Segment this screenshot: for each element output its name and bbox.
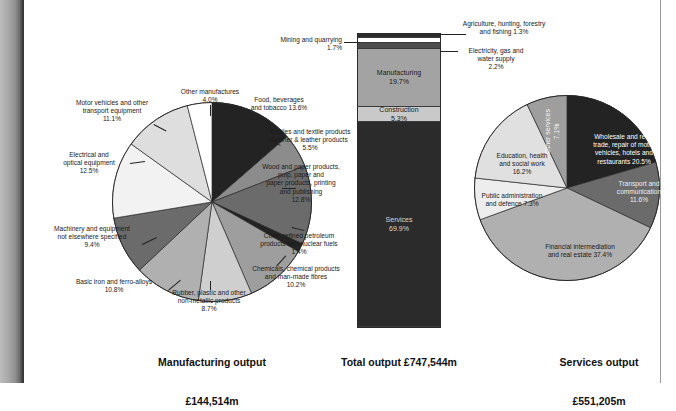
- bar-segment: Manufacturing 19.7%: [358, 49, 440, 107]
- services-output-total: £551,205m: [524, 395, 674, 408]
- pie2-label-other-services: Other services 7.1%: [544, 101, 561, 163]
- bar-segment: Construction 5.3%: [358, 107, 440, 123]
- pie1-leader-rubber-plastic: [210, 281, 211, 290]
- pie2-label-public-admin: Public administration and defence 7.3%: [454, 192, 570, 208]
- services-output-caption: Services output £551,205m: [524, 330, 674, 411]
- pie2-label-transport: Transport and communication 11.6%: [600, 180, 676, 205]
- bar-leader-electricity: [440, 51, 458, 52]
- bar-segment: Services 69.9%: [358, 122, 440, 327]
- bar-segment-label: Construction 5.3%: [358, 106, 440, 123]
- manufacturing-output-caption: Manufacturing output £144,514m: [132, 330, 292, 411]
- pie1-label-coke-petroleum: Coke, refined petroleum products and nuc…: [234, 232, 364, 257]
- pie1-label-motor-vehicles: Motor vehicles and other transport equip…: [50, 99, 174, 124]
- total-output-title: Total output £747,544m: [314, 356, 484, 369]
- pie1-label-rubber-plastic: Rubber, plastic and other non-metallic p…: [150, 289, 268, 314]
- pie2-label-financial: Financial intermediation and real estate…: [522, 243, 638, 259]
- total-output-bar-chart: Manufacturing 19.7%Construction 5.3%Serv…: [357, 33, 441, 328]
- charts-canvas: Other manufactures 4.0% Motor vehicles a…: [24, 0, 660, 383]
- manufacturing-output-title: Manufacturing output: [132, 356, 292, 369]
- pie1-leader-wood-paper: [282, 188, 296, 189]
- pie2-label-wholesale-retail: Wholesale and retail trade, repair of mo…: [576, 133, 672, 166]
- bar-segment-label: Services 69.9%: [358, 216, 440, 233]
- pie1-label-wood-paper: Wood and paper products, pulp, paper and…: [242, 163, 360, 204]
- bar-leader-mining: [344, 42, 360, 43]
- page-edge-shading: [0, 0, 22, 383]
- pie1-leader-other-manufactures: [210, 105, 211, 116]
- pie1-label-electrical-optical: Electrical and optical equipment 12.5%: [34, 151, 144, 176]
- bar-segment-label: Manufacturing 19.7%: [358, 69, 440, 86]
- pie1-label-textiles: Textiles and textile products leather & …: [246, 128, 374, 153]
- services-output-title: Services output: [524, 356, 674, 369]
- pie1-label-food-beverages: Food, beverages and tobacco 13.6%: [224, 96, 334, 112]
- bar-callout-electricity: Electricity, gas and water supply 2.2%: [442, 47, 550, 72]
- total-output-caption: Total output £747,544m: [314, 330, 484, 395]
- pie1-label-chemicals: Chemicals, chemical products and man-mad…: [228, 265, 364, 290]
- bar-callout-mining: Mining and quarrying 1.7%: [242, 36, 342, 52]
- manufacturing-output-total: £144,514m: [132, 395, 292, 408]
- pie1-label-machinery-equipment: Machinery and equipment not elsewhere sp…: [22, 225, 162, 250]
- bar-leader-agriculture: [440, 34, 466, 35]
